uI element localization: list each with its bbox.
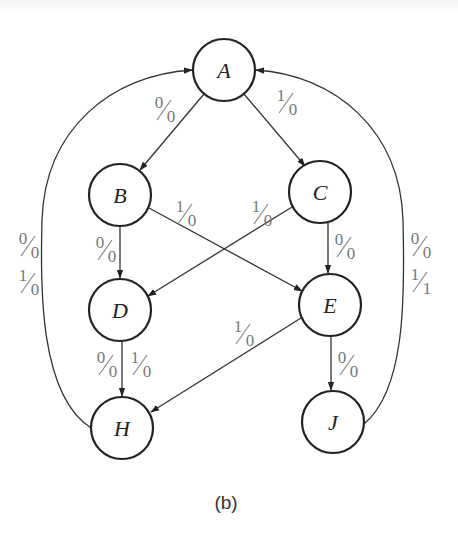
svg-text:0: 0 (108, 247, 117, 266)
svg-text:1: 1 (131, 348, 140, 367)
label-a-to-b: 0 0 (155, 93, 176, 126)
svg-text:0: 0 (19, 229, 28, 248)
label-c-to-e: 0 0 (335, 230, 356, 263)
label-b-to-d: 0 0 (96, 233, 117, 266)
svg-text:0: 0 (335, 230, 344, 249)
svg-text:0: 0 (31, 280, 40, 299)
svg-text:1: 1 (252, 197, 261, 216)
edge-a-to-b (140, 94, 204, 170)
edge-b-to-e (149, 208, 302, 291)
label-h-to-a-1: 1 0 (19, 266, 40, 299)
svg-text:1: 1 (19, 266, 28, 285)
svg-text:1: 1 (423, 279, 432, 298)
svg-text:1: 1 (411, 265, 420, 284)
svg-text:0: 0 (338, 348, 347, 367)
label-e-to-h: 1 0 (234, 317, 255, 350)
svg-text:0: 0 (264, 211, 273, 230)
svg-text:0: 0 (423, 243, 432, 262)
svg-text:0: 0 (97, 348, 106, 367)
svg-text:0: 0 (155, 93, 164, 112)
label-b-to-e: 1 0 (176, 197, 197, 230)
state-label-h: H (113, 416, 131, 441)
state-label-d: D (111, 298, 128, 323)
svg-text:0: 0 (188, 211, 197, 230)
figure-caption: (b) (214, 492, 237, 513)
edge-labels: 0 0 1 0 0 0 1 0 1 0 0 (19, 86, 432, 381)
state-label-a: A (215, 58, 231, 83)
svg-text:0: 0 (31, 243, 40, 262)
svg-text:0: 0 (109, 362, 118, 381)
label-e-to-j: 0 0 (338, 348, 359, 381)
state-diagram: A B C D E H J 0 0 1 0 0 0 1 0 (0, 0, 458, 538)
svg-text:0: 0 (167, 107, 176, 126)
svg-text:0: 0 (347, 244, 356, 263)
state-label-e: E (322, 293, 337, 318)
label-d-to-h-1: 1 0 (131, 348, 152, 381)
state-label-j: J (328, 410, 339, 435)
svg-text:1: 1 (277, 86, 286, 105)
svg-text:0: 0 (411, 229, 420, 248)
state-label-c: C (313, 180, 328, 205)
svg-text:1: 1 (234, 317, 243, 336)
svg-text:0: 0 (143, 362, 152, 381)
states (89, 39, 364, 459)
svg-text:1: 1 (176, 197, 185, 216)
label-a-to-c: 1 0 (277, 86, 298, 119)
label-d-to-h-0: 0 0 (97, 348, 118, 381)
svg-text:0: 0 (96, 233, 105, 252)
edge-j-to-a (256, 70, 404, 424)
label-j-to-a-0: 0 0 (411, 229, 432, 262)
svg-text:0: 0 (246, 331, 255, 350)
state-label-b: B (113, 183, 126, 208)
svg-text:0: 0 (350, 362, 359, 381)
edge-e-to-h (151, 318, 301, 412)
label-h-to-a-0: 0 0 (19, 229, 40, 262)
label-j-to-a-1: 1 1 (411, 265, 432, 298)
svg-text:0: 0 (289, 100, 298, 119)
